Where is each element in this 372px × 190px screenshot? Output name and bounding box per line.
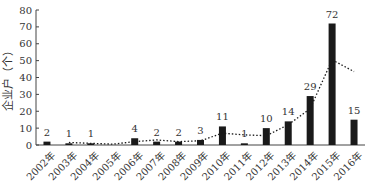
bar: [263, 128, 270, 145]
y-tick-label: 60: [19, 38, 32, 49]
chart: 01020304050607080 2002年2003年2004年2005年20…: [0, 0, 372, 190]
y-tick-label: 30: [19, 89, 32, 100]
data-label: 29: [304, 81, 317, 92]
y-tick-label: 40: [19, 72, 32, 83]
bar: [351, 120, 358, 145]
data-label: 3: [197, 125, 203, 136]
y-axis: 01020304050607080: [19, 5, 39, 151]
y-tick-label: 10: [19, 123, 32, 134]
y-tick-label: 0: [26, 140, 32, 151]
y-tick-label: 20: [19, 106, 32, 117]
y-tick-label: 70: [19, 21, 32, 32]
bar: [43, 142, 50, 145]
y-axis-label: 企业户（个）: [1, 45, 15, 111]
bar: [153, 142, 160, 145]
bar: [65, 143, 72, 145]
data-label: 1: [241, 128, 247, 139]
data-label: 72: [326, 9, 339, 20]
data-label: 2: [44, 127, 50, 138]
data-label: 1: [66, 128, 72, 139]
bar: [285, 121, 292, 145]
data-label: 14: [282, 106, 295, 117]
data-label: 15: [348, 105, 361, 116]
y-tick-label: 80: [19, 5, 32, 16]
data-label: 11: [216, 111, 229, 122]
data-label: 10: [260, 113, 273, 124]
data-label: 1: [88, 128, 94, 139]
data-label: 4: [132, 123, 138, 134]
bar: [197, 140, 204, 145]
data-label: 2: [153, 127, 159, 138]
x-axis: 2002年2003年2004年2005年2006年2007年2008年2009年…: [24, 145, 365, 182]
bar: [241, 143, 248, 145]
y-tick-label: 50: [19, 55, 32, 66]
bar: [219, 126, 226, 145]
data-label: 2: [175, 127, 181, 138]
bar: [329, 24, 336, 146]
